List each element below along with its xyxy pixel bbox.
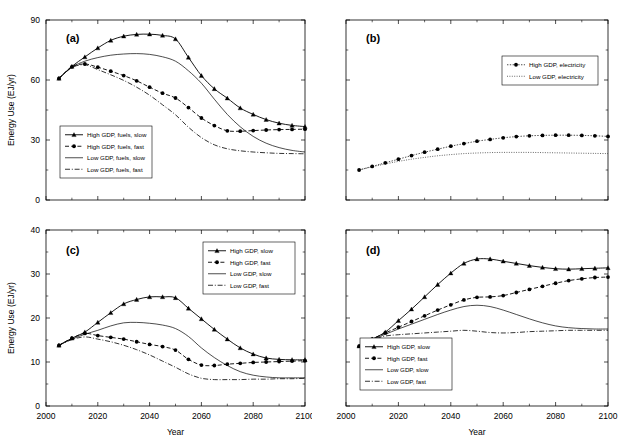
data-point-marker — [215, 260, 219, 264]
data-point-marker — [436, 308, 440, 312]
data-point-marker — [567, 133, 571, 137]
series-1 — [357, 257, 610, 348]
data-point-marker — [580, 277, 584, 281]
series-2 — [359, 152, 608, 170]
series-line — [59, 333, 305, 365]
x-tick-label: 2060 — [192, 411, 211, 421]
data-point-marker — [212, 124, 216, 128]
series-line — [59, 34, 305, 126]
data-point-marker — [277, 128, 281, 132]
y-tick-label: 10 — [31, 357, 41, 367]
y-tick-label: 0 — [35, 195, 40, 205]
y-tick-label: 30 — [31, 135, 41, 145]
legend-label: Low GDP, fast — [230, 282, 269, 289]
data-point-marker — [109, 335, 113, 339]
data-point-marker — [554, 281, 558, 285]
data-point-marker — [122, 74, 126, 78]
x-tick-label: 2000 — [337, 411, 356, 421]
data-point-marker — [264, 360, 268, 364]
legend-label: High GDP, fast — [387, 355, 428, 362]
series-line — [359, 135, 608, 170]
data-point-marker — [72, 144, 76, 148]
data-point-marker — [423, 314, 427, 318]
legend-label: High GDP, fast — [230, 259, 271, 266]
panel-a: 0306090Energy Use (EJ/yr)(a)High GDP, fu… — [0, 0, 312, 222]
data-point-marker — [501, 294, 505, 298]
data-point-marker — [449, 303, 453, 307]
data-point-marker — [554, 133, 558, 137]
data-point-marker — [122, 302, 126, 306]
data-point-marker — [449, 144, 453, 148]
data-point-marker — [593, 276, 597, 280]
panel-c: 010203040200020202040206020802100Energy … — [0, 216, 312, 442]
data-point-marker — [148, 343, 152, 347]
data-point-marker — [436, 147, 440, 151]
panel-a-plot: 0306090Energy Use (EJ/yr)(a)High GDP, fu… — [0, 0, 312, 222]
data-point-marker — [251, 112, 255, 116]
x-tick-label: 2080 — [244, 411, 263, 421]
series-2 — [57, 62, 307, 133]
data-point-marker — [514, 63, 518, 67]
data-point-marker — [57, 343, 61, 347]
legend-label: Low GDP, fuels, slow — [87, 154, 146, 161]
data-point-marker — [475, 139, 479, 143]
plot-frame — [346, 20, 608, 200]
data-point-marker — [290, 127, 294, 131]
data-point-marker — [96, 65, 100, 69]
panel-b-plot: (b)High GDP, electricityLow GDP, electri… — [310, 0, 620, 222]
panel-b: (b)High GDP, electricityLow GDP, electri… — [310, 0, 620, 222]
data-point-marker — [514, 291, 518, 295]
series-1 — [57, 295, 307, 362]
legend-label: Low GDP, slow — [230, 270, 272, 277]
data-point-marker — [212, 364, 216, 368]
y-axis-title: Energy Use (EJ/yr) — [6, 74, 16, 146]
data-point-marker — [475, 295, 479, 299]
legend-label: Low GDP, slow — [387, 366, 429, 373]
data-point-marker — [251, 361, 255, 365]
x-tick-label: 2100 — [599, 411, 618, 421]
legend-label: High GDP, slow — [387, 343, 430, 350]
y-tick-label: 20 — [31, 313, 41, 323]
x-axis-title: Year — [167, 427, 184, 437]
legend-label: High GDP, fuels, fast — [87, 143, 144, 150]
data-point-marker — [187, 106, 191, 110]
data-point-marker — [528, 134, 532, 138]
legend: High GDP, slowHigh GDP, fastLow GDP, slo… — [360, 338, 452, 390]
data-point-marker — [148, 85, 152, 89]
data-point-marker — [580, 134, 584, 138]
series-line — [359, 152, 608, 170]
series-2 — [357, 275, 610, 348]
data-point-marker — [303, 127, 307, 131]
data-point-marker — [462, 298, 466, 302]
series-line — [359, 277, 608, 346]
series-line — [59, 297, 305, 360]
data-point-marker — [567, 279, 571, 283]
legend: High GDP, electricityLow GDP, electricit… — [502, 56, 598, 85]
data-point-marker — [514, 135, 518, 139]
y-tick-label: 0 — [35, 401, 40, 411]
x-tick-label: 2000 — [37, 411, 56, 421]
data-point-marker — [528, 288, 532, 292]
x-tick-label: 2040 — [441, 411, 460, 421]
y-axis-title: Energy Use (EJ/yr) — [6, 282, 16, 354]
data-point-marker — [109, 38, 113, 42]
data-point-marker — [251, 129, 255, 133]
series-2 — [57, 332, 307, 368]
data-point-marker — [225, 129, 229, 133]
legend: High GDP, slowHigh GDP, fastLow GDP, slo… — [203, 242, 295, 294]
data-point-marker — [200, 116, 204, 120]
x-axis-title: Year — [468, 427, 485, 437]
panel-d: 200020202040206020802100Year(d)High GDP,… — [310, 216, 620, 442]
series-line — [359, 259, 608, 347]
series-group — [357, 133, 610, 172]
legend-label: High GDP, slow — [230, 247, 273, 254]
data-point-marker — [290, 359, 294, 363]
y-tick-label: 30 — [31, 269, 41, 279]
x-tick-label: 2020 — [88, 411, 107, 421]
legend-label: Low GDP, fast — [387, 378, 426, 385]
y-tick-label: 40 — [31, 225, 41, 235]
x-tick-label: 2080 — [546, 411, 565, 421]
data-point-marker — [187, 357, 191, 361]
data-point-marker — [122, 337, 126, 341]
data-point-marker — [174, 96, 178, 100]
